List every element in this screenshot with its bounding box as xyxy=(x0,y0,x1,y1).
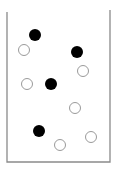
particle-container-diagram xyxy=(0,0,122,171)
filled-particle-icon xyxy=(33,125,45,137)
hollow-particle-icon xyxy=(78,66,89,77)
filled-particle-icon xyxy=(71,46,83,58)
hollow-particle-icon xyxy=(86,132,97,143)
filled-particle-icon xyxy=(45,78,57,90)
particles-group xyxy=(19,29,97,151)
hollow-particle-icon xyxy=(19,45,30,56)
filled-particle-icon xyxy=(29,29,41,41)
hollow-particle-icon xyxy=(22,79,33,90)
hollow-particle-icon xyxy=(55,140,66,151)
hollow-particle-icon xyxy=(70,103,81,114)
